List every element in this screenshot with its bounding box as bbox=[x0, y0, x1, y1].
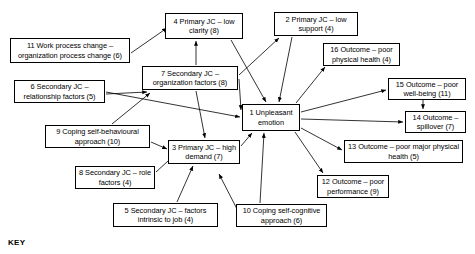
node-n14[interactable]: 14 Outcome – spillover (7) bbox=[405, 111, 466, 133]
node-n4[interactable]: 4 Primary JC – low clarity (8) bbox=[165, 13, 243, 39]
node-label: 13 Outcome – poor major physical health … bbox=[347, 142, 460, 160]
edge-n1-to-n14 bbox=[301, 119, 403, 122]
edge-n2-to-n1 bbox=[279, 37, 292, 102]
key-label: KEY bbox=[8, 238, 25, 247]
edge-n6-to-n1 bbox=[106, 92, 240, 117]
node-n15[interactable]: 15 Outcome – poor well-being (11) bbox=[388, 78, 466, 100]
node-label: 2 Primary JC – low support (4) bbox=[277, 15, 355, 33]
node-label: 4 Primary JC – low clarity (8) bbox=[168, 17, 240, 35]
node-label: 6 Secondary JC – relationship factors (5… bbox=[17, 82, 102, 100]
edge-n1-to-n12 bbox=[295, 132, 323, 173]
node-label: 11 Work process change – organization pr… bbox=[13, 41, 127, 59]
edge-n11-to-n4 bbox=[131, 28, 167, 53]
edge-n1-to-n13 bbox=[301, 128, 342, 150]
node-n3[interactable]: 3 Primary JC – high demand (7) bbox=[168, 140, 240, 164]
node-n2[interactable]: 2 Primary JC – low support (4) bbox=[274, 12, 358, 36]
edge-n3-to-n1 bbox=[241, 133, 252, 146]
node-n13[interactable]: 13 Outcome – poor major physical health … bbox=[344, 140, 463, 163]
node-n12[interactable]: 12 Outcome – poor performance (9) bbox=[317, 175, 389, 198]
edge-n7-to-n1 bbox=[239, 79, 241, 110]
node-n10[interactable]: 10 Coping self-cognitive approach (6) bbox=[236, 204, 327, 227]
node-label: 14 Outcome – spillover (7) bbox=[408, 113, 463, 131]
edge-n5-to-n3 bbox=[177, 166, 193, 202]
node-label: 1 Unpleasant emotion bbox=[245, 108, 297, 126]
edge-n9-to-n3 bbox=[151, 142, 167, 149]
node-label: 7 Secondary JC – organization factors (8… bbox=[145, 69, 235, 87]
node-label: 15 Outcome – poor well-being (11) bbox=[391, 80, 463, 98]
node-n8[interactable]: 8 Secondary JC – role factors (4) bbox=[75, 166, 155, 189]
edge-n10-to-n1 bbox=[260, 133, 264, 203]
node-n6[interactable]: 6 Secondary JC – relationship factors (5… bbox=[14, 80, 105, 103]
edge-n1-to-n15 bbox=[301, 90, 386, 112]
node-n16[interactable]: 16 Outcome – poor physical health (4) bbox=[323, 43, 400, 66]
node-label: 9 Coping self-behavioural approach (10) bbox=[48, 127, 147, 145]
edge-n7-to-n3 bbox=[196, 91, 205, 138]
node-n11[interactable]: 11 Work process change – organization pr… bbox=[10, 38, 130, 63]
edge-n7-to-n2 bbox=[239, 38, 279, 75]
diagram-canvas: 1 Unpleasant emotion2 Primary JC – low s… bbox=[0, 0, 475, 254]
node-n1[interactable]: 1 Unpleasant emotion bbox=[242, 104, 300, 131]
node-n5[interactable]: 5 Secondary JC – factors intrinsic to jo… bbox=[113, 203, 218, 227]
edge-n9-to-n7 bbox=[112, 93, 150, 124]
node-label: 10 Coping self-cognitive approach (6) bbox=[239, 206, 324, 224]
node-n9[interactable]: 9 Coping self-behavioural approach (10) bbox=[45, 125, 150, 148]
edge-n10-to-n6 bbox=[219, 174, 237, 209]
node-n7[interactable]: 7 Secondary JC – organization factors (8… bbox=[142, 66, 238, 90]
node-label: 5 Secondary JC – factors intrinsic to jo… bbox=[116, 206, 215, 224]
node-label: 12 Outcome – poor performance (9) bbox=[320, 177, 386, 195]
node-label: 3 Primary JC – high demand (7) bbox=[171, 143, 237, 161]
edge-n1-to-n16 bbox=[296, 67, 325, 103]
node-label: 8 Secondary JC – role factors (4) bbox=[78, 168, 152, 186]
node-label: 16 Outcome – poor physical health (4) bbox=[326, 45, 397, 63]
